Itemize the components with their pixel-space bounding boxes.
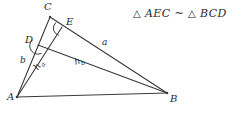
triangle-symbol-left: △ (133, 8, 141, 19)
similarity-statement: △ AEC ~ △ BCD (133, 7, 227, 20)
vertex-label-C: C (44, 2, 52, 12)
similar-symbol: ~ (175, 7, 185, 20)
vertex-dot-C (49, 16, 51, 18)
vertex-label-B: B (170, 94, 177, 104)
vertex-dot-B (166, 92, 169, 95)
vertex-label-A: A (7, 92, 14, 102)
similar-triangle-left: AEC (145, 7, 171, 20)
segment-altitude-hb-BD (38, 45, 167, 93)
geometry-figure-canvas: A B C D E a b ha hb △ AEC ~ △ BCD (0, 0, 236, 113)
triangle-symbol-right: △ (188, 8, 196, 19)
vertex-label-D: D (25, 35, 33, 45)
right-angle-at-D-icon (32, 51, 42, 54)
segment-side-c-AB (17, 93, 167, 97)
similar-triangle-right: BCD (200, 7, 227, 20)
side-label-a: a (102, 38, 107, 47)
side-label-b: b (20, 56, 26, 65)
vertex-label-E: E (66, 17, 73, 27)
right-angle-at-E-icon-inner (53, 22, 56, 30)
vertex-dot-A (16, 96, 19, 99)
segment-side-a-CB (50, 17, 167, 93)
